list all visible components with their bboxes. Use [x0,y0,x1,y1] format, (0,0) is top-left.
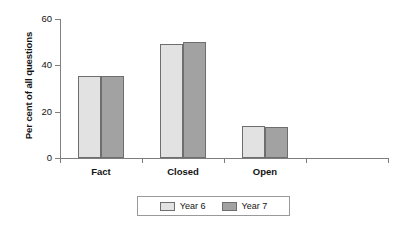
x-tick [142,158,143,163]
y-tick-label: 0 [12,152,52,163]
legend-label: Year 7 [242,201,268,211]
x-category-label: Open [220,166,310,177]
legend-item: Year 7 [222,201,268,211]
y-axis-title: Per cent of all questions [23,11,34,161]
bar [101,76,124,158]
y-tick-label: 60 [12,13,52,24]
y-tick [55,65,60,66]
y-tick-label: 40 [12,59,52,70]
y-axis-line [60,19,61,159]
y-tick [55,19,60,20]
legend-label: Year 6 [180,201,206,211]
bar [265,127,288,158]
legend-swatch [160,202,175,211]
y-tick-label: 20 [12,106,52,117]
x-tick [60,158,61,163]
x-tick [306,158,307,163]
bar [242,126,265,158]
bar [160,44,183,158]
x-category-label: Fact [56,166,146,177]
bar [183,42,206,158]
legend-swatch [222,202,237,211]
x-category-label: Closed [138,166,228,177]
x-tick [388,158,389,163]
chart-legend: Year 6Year 7 [137,196,290,216]
legend-item: Year 6 [160,201,206,211]
bar [78,76,101,158]
bar-chart: Per cent of all questions 0204060 FactCl… [0,0,402,228]
y-tick [55,112,60,113]
x-tick [224,158,225,163]
